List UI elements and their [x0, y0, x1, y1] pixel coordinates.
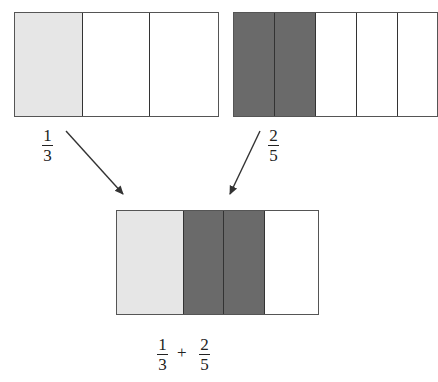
expression-left: 1 3 [157, 337, 168, 373]
expression-right: 2 5 [199, 337, 210, 373]
combined-segment-empty [265, 211, 318, 314]
numerator: 2 [200, 337, 209, 353]
numerator: 1 [158, 337, 167, 353]
combined-segment-fifth [224, 211, 265, 314]
plus-sign: + [177, 343, 187, 363]
combined-segment-fifth [184, 211, 224, 314]
denominator: 5 [200, 357, 209, 373]
combined-segment-third [117, 211, 184, 314]
arrows [0, 0, 438, 382]
combined-bar [116, 210, 319, 315]
arrow-left-icon [66, 131, 123, 194]
denominator: 3 [158, 357, 167, 373]
arrow-right-icon [230, 131, 260, 194]
